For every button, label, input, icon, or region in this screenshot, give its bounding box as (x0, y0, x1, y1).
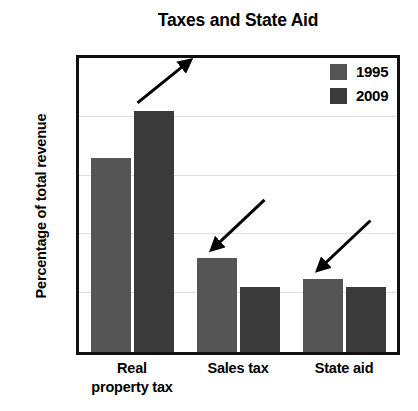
bar (303, 279, 343, 353)
legend-item[interactable]: 1995 (330, 61, 400, 83)
x-axis-tick-label: State aid (291, 359, 397, 378)
bar (240, 287, 280, 352)
x-axis-tick-label-line: Sales tax (185, 359, 291, 378)
legend-swatch-icon (330, 64, 347, 80)
chart-figure: Taxes and State Aid Percentage of total … (0, 0, 418, 411)
bar (197, 258, 237, 352)
x-axis-tick-label: Sales tax (185, 359, 291, 378)
x-axis-tick-label-line: Real (79, 359, 185, 378)
legend-item[interactable]: 2009 (330, 85, 400, 107)
bar (91, 158, 131, 352)
bar (346, 287, 386, 352)
x-axis-tick-label-line: State aid (291, 359, 397, 378)
legend-swatch-icon (330, 88, 347, 104)
x-axis-tick-label-line: property tax (79, 378, 185, 397)
x-axis-tick-label: Realproperty tax (79, 359, 185, 397)
bar (134, 111, 174, 352)
chart-title: Taxes and State Aid (76, 9, 400, 31)
x-axis-tick-labels: Realproperty taxSales taxState aid (76, 359, 400, 411)
chart-legend: 19952009 (330, 61, 400, 109)
gridline (79, 116, 397, 117)
legend-label: 1995 (356, 64, 388, 80)
legend-label: 2009 (356, 88, 388, 104)
